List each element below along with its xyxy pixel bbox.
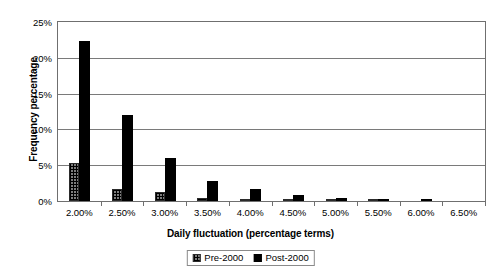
bar-group — [58, 22, 101, 201]
bars-layer — [58, 22, 485, 201]
y-axis-tick-label: 20% — [0, 52, 52, 63]
y-axis-tick-label: 0% — [0, 196, 52, 207]
bar-group — [101, 22, 144, 201]
bar-group — [442, 22, 485, 201]
bar-post-2000 — [165, 158, 176, 201]
bar-pre-2000 — [155, 192, 165, 201]
y-axis-tick-label: 5% — [0, 160, 52, 171]
bar-pre-2000 — [283, 199, 293, 201]
bar-group — [314, 22, 357, 201]
bar-post-2000 — [122, 115, 133, 201]
y-axis-tick-label: 25% — [0, 17, 52, 28]
legend-label-pre-2000: Pre-2000 — [204, 252, 243, 263]
x-axis-tick-mark — [101, 202, 102, 206]
x-axis-tick-label: 4.00% — [237, 207, 264, 218]
x-axis-tick-mark — [442, 202, 443, 206]
bar-group — [357, 22, 400, 201]
bar-group — [229, 22, 272, 201]
bar-post-2000 — [79, 41, 90, 201]
bar-group — [272, 22, 315, 201]
y-axis-tick-label: 10% — [0, 124, 52, 135]
y-axis-tick-label: 15% — [0, 88, 52, 99]
x-axis-tick-label: 2.50% — [109, 207, 136, 218]
bar-post-2000 — [336, 198, 347, 201]
legend-label-post-2000: Post-2000 — [265, 252, 308, 263]
legend-item-post-2000: Post-2000 — [253, 252, 308, 263]
x-axis-tick-label: 3.00% — [151, 207, 178, 218]
bar-pre-2000 — [197, 198, 207, 201]
x-axis-tick-label: 5.50% — [365, 207, 392, 218]
bar-post-2000 — [421, 199, 432, 201]
bar-group — [186, 22, 229, 201]
legend-item-pre-2000: Pre-2000 — [192, 252, 243, 263]
x-axis-tick-labels: 2.00%2.50%3.00%3.50%4.00%4.50%5.00%5.50%… — [58, 202, 485, 224]
x-axis-tick-label: 6.50% — [450, 207, 477, 218]
x-axis-tick-mark — [314, 202, 315, 206]
x-axis-tick-label: 2.00% — [66, 207, 93, 218]
x-axis-tick-mark — [272, 202, 273, 206]
legend-swatch-post-2000-icon — [253, 254, 261, 262]
x-axis-tick-mark — [485, 202, 486, 206]
x-axis-tick-label: 6.00% — [407, 207, 434, 218]
x-axis-tick-label: 4.50% — [279, 207, 306, 218]
bar-pre-2000 — [326, 199, 336, 201]
x-axis-tick-mark — [357, 202, 358, 206]
bar-post-2000 — [250, 189, 261, 201]
bar-post-2000 — [378, 199, 389, 201]
x-axis-tick-mark — [186, 202, 187, 206]
bar-post-2000 — [293, 195, 304, 201]
x-axis-tick-mark — [229, 202, 230, 206]
bar-pre-2000 — [368, 199, 378, 201]
bar-pre-2000 — [69, 163, 79, 201]
legend-swatch-pre-2000-icon — [192, 254, 200, 262]
bar-pre-2000 — [240, 199, 250, 201]
bar-post-2000 — [207, 181, 218, 201]
x-axis-tick-label: 5.00% — [322, 207, 349, 218]
x-axis-tick-mark — [143, 202, 144, 206]
bar-chart: Frequency percentage 0%5%10%15%20%25% 2.… — [0, 0, 501, 276]
x-axis-tick-mark — [400, 202, 401, 206]
bar-pre-2000 — [112, 189, 122, 201]
chart-legend: Pre-2000 Post-2000 — [186, 250, 314, 266]
x-axis-tick-label: 3.50% — [194, 207, 221, 218]
bar-group — [400, 22, 443, 201]
x-axis-title: Daily fluctuation (percentage terms) — [0, 228, 501, 239]
bar-group — [143, 22, 186, 201]
